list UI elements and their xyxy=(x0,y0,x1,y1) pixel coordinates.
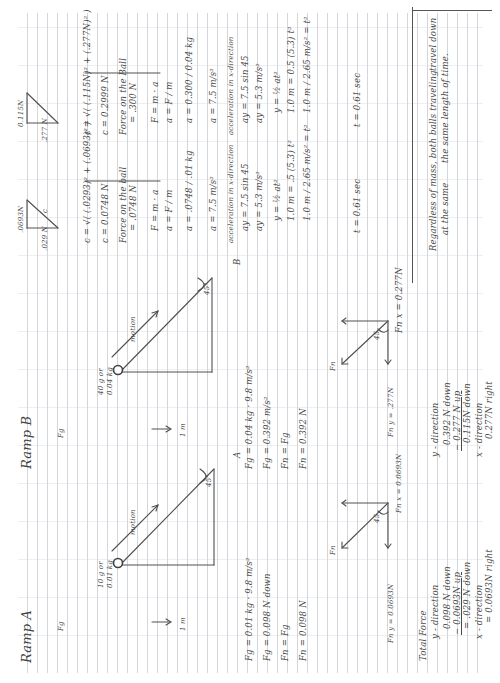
sol-a-line-5: F = m · a xyxy=(150,190,160,231)
ramp-a-y-line2: − 0.0693N up xyxy=(452,572,462,635)
sol-b-line-9: acceleration in x-direction xyxy=(226,36,236,135)
sol-a-line-1: c = √( (.0293)² + (.0693)² ) xyxy=(82,121,92,243)
sol-a-conclusion-2: the same length of time. xyxy=(440,53,450,163)
ramp-b-point: B xyxy=(232,259,242,265)
sol-b-line-12: y = ½ at² xyxy=(272,71,282,113)
ramp-b-y-heading: y - direction xyxy=(430,403,440,457)
sol-a-conclusion-1: Regardless of mass, both balls traveling xyxy=(428,70,438,251)
worksheet-page: Ramp A Fg 10 g or 0.01 kg motion 45° 1 m… xyxy=(0,0,500,683)
ramp-b-y-line1: 0.392 N down xyxy=(442,382,452,445)
sol-a-line-11: ay = 5.3 m/s² xyxy=(254,171,264,231)
ramp-a-calc-1: Fg = 0.01 kg · 9.8 m/s² xyxy=(244,557,254,661)
ramp-a-mass-kg: 0.01 kg xyxy=(105,560,115,588)
sol-a-tri-x: .0693N xyxy=(16,206,26,233)
sol-b-line-6: a = F / m xyxy=(164,81,174,123)
sol-a-line-15: t = 0.61 sec xyxy=(352,179,362,233)
ramp-b-motion: motion xyxy=(128,316,138,342)
ramp-a-vector-diagram xyxy=(342,500,391,548)
sol-a-line-2: c = 0.0748 N xyxy=(100,183,110,243)
sol-b-line-8: a = 7.5 m/s² xyxy=(208,68,218,123)
ramp-b-diagram xyxy=(112,278,212,432)
ramp-b-fn-label: Fn xyxy=(328,361,338,371)
ramp-a-vector-angle: 45 xyxy=(372,514,382,523)
ramp-a-point: A xyxy=(232,452,242,458)
sol-b-line-4: = .300 N xyxy=(128,83,138,124)
ramp-b-gravity-label: Fg xyxy=(56,428,66,438)
ramp-a-calc-2: Fg = 0.098 N down xyxy=(262,573,272,661)
ramp-a-calc-3: Fn = Fg xyxy=(280,624,290,661)
sol-a-tri-y: .029 N xyxy=(40,226,50,251)
sol-b-line-15: t = 0.61 sec xyxy=(352,73,362,127)
sol-a-line-14: 1.0 m / 2.65 m/s² = t² xyxy=(302,124,312,221)
ramp-a-y-line1: 0.098 N down xyxy=(442,566,452,629)
sol-b-line-3: Force on the Ball xyxy=(118,58,128,135)
sol-a-line-4: = .0748 N xyxy=(128,185,138,231)
ramp-b-x-result: 0.277N right xyxy=(484,381,494,439)
ramp-a-gravity-label: Fg xyxy=(56,621,66,631)
sol-a-line-12: y = ½ at² xyxy=(272,179,282,221)
sol-b-conclusion-1: travel down xyxy=(428,18,438,71)
sol-b-line-1: c = √( (.115N)² + (.277N)² ) xyxy=(82,9,92,135)
sol-a-line-13: 1.0 m = .5 (5.3) t² xyxy=(286,140,296,221)
sol-b-tri-x: 0.115N xyxy=(16,100,26,127)
section-divider-end xyxy=(412,10,492,11)
ramp-a-motion: motion xyxy=(128,509,138,535)
ramp-b-calc-2: Fg = 0.392 m/s² xyxy=(262,396,272,469)
ramp-b-mass-kg: 0.04 kg xyxy=(105,367,115,395)
sol-b-line-11: ay = 5.3 m/s² xyxy=(254,63,264,123)
ramp-a-y-result: = .029 N down xyxy=(462,562,472,630)
sol-b-line-13: 1.0 m = 0.5 (5.3) t² xyxy=(286,26,296,113)
ramp-b-x-heading: x - direction xyxy=(474,403,484,457)
ramp-a-fn-label: Fn xyxy=(328,545,338,555)
ramp-b-fn-y: Fn y = .277N xyxy=(386,387,396,437)
ramp-a-x-result: = 0.0693N right xyxy=(484,549,494,623)
sol-b-tri-y: .277 N xyxy=(40,118,50,143)
section-divider xyxy=(412,7,413,283)
ramp-a-base: 1 m xyxy=(178,617,188,631)
ramp-b-vector-diagram xyxy=(342,318,391,364)
ramp-a-calc-4: Fn = 0.098 N xyxy=(298,600,308,661)
ramp-a-diagram xyxy=(112,469,214,625)
sol-a-line-3: Force on the ball xyxy=(118,167,128,243)
ramp-b-base: 1 m xyxy=(178,423,188,437)
ramp-a-fn-x: Fn x = 0.0693N xyxy=(394,454,404,513)
ramp-a-fn-y: Fn y = 0.0693N xyxy=(386,584,396,643)
sol-a-line-10: ay = 7.5 sin 45 xyxy=(240,163,250,231)
ramp-a-angle: 45° xyxy=(204,474,214,487)
ramp-b-calc-1: Fg = 0.04 kg · 9.8 m/s² xyxy=(244,365,254,469)
sol-a-line-9: acceleration in x-direction xyxy=(226,144,236,243)
sol-b-conclusion-2: at the same xyxy=(440,182,450,235)
sol-b-line-5: F = m · a xyxy=(150,82,160,123)
sol-a-line-7: a = .0748 / .01 kg xyxy=(184,150,194,231)
sol-b-line-2: c = 0.2999 N xyxy=(100,75,110,135)
ramp-b-fn-x: Fn x = 0.277N xyxy=(394,267,404,333)
ramp-b-calc-4: Fn = 0.392 N xyxy=(298,408,308,469)
sol-b-line-14: 1.0 m / 2.65 m/s² = t² xyxy=(302,16,312,113)
sol-a-tri-h: c xyxy=(40,209,50,213)
sol-a-line-8: a = 7.5 m/s² xyxy=(208,176,218,231)
solution-a-triangle xyxy=(27,200,58,228)
ramp-a-y-heading: y - direction xyxy=(430,585,440,639)
sol-b-line-7: a = 0.300 / 0.04 kg xyxy=(184,37,194,123)
sol-b-line-10: ay = 7.5 sin 45 xyxy=(240,55,250,123)
ramp-a-title: Ramp A xyxy=(22,610,32,663)
ramp-b-calc-3: Fn = Fg xyxy=(280,432,290,469)
ramp-b-vector-angle: 45 xyxy=(372,331,382,340)
ramp-a-x-heading: x - direction xyxy=(474,585,484,639)
total-force-heading: Total Force xyxy=(418,610,428,661)
ramp-b-y-line2: − 0.277 N up xyxy=(452,391,462,451)
ramp-b-y-result: 0.115N down xyxy=(462,383,472,443)
sol-a-line-6: a = F / m xyxy=(164,189,174,231)
ramp-b-angle: 45° xyxy=(202,282,212,295)
ramp-b-title: Ramp B xyxy=(22,416,32,469)
